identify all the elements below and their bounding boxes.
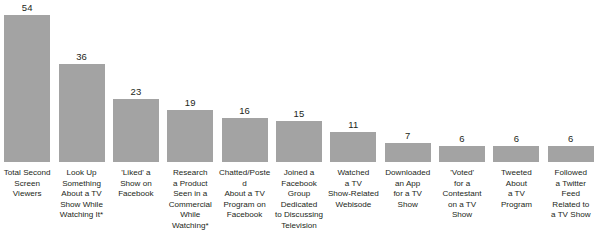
- bar-column: 7: [381, 0, 435, 162]
- bar-value-label: 23: [131, 86, 142, 97]
- bar-value-label: 6: [568, 133, 573, 144]
- bar-value-label: 19: [185, 97, 196, 108]
- bar-column: 23: [109, 0, 163, 162]
- category-label: Look Up Something About a TV Show While …: [54, 164, 108, 221]
- category-label: Tweeted About a TV Program: [489, 164, 543, 210]
- bar-column: 11: [326, 0, 380, 162]
- bar-column: 36: [54, 0, 108, 162]
- bar-column: 54: [0, 0, 54, 162]
- bar-rect: [222, 118, 268, 162]
- bar-column: 6: [489, 0, 543, 162]
- bar-rect: [493, 146, 539, 162]
- category-label: Total Second Screen Viewers: [0, 164, 54, 200]
- bar-rect: [59, 64, 105, 162]
- bar-rect: [4, 15, 50, 162]
- bar-column: 6: [544, 0, 598, 162]
- category-label: Joined a Facebook Group Dedicated to Dis…: [272, 164, 326, 232]
- bar-value-label: 36: [76, 51, 87, 62]
- bar-rect: [385, 143, 431, 162]
- bar-value-label: 6: [514, 133, 519, 144]
- bar-column: 16: [217, 0, 271, 162]
- bar-chart: 543623191615117666 Total Second Screen V…: [0, 0, 598, 250]
- bar-rect: [113, 99, 159, 162]
- bar-value-label: 6: [459, 133, 464, 144]
- bar-column: 6: [435, 0, 489, 162]
- bar-column: 19: [163, 0, 217, 162]
- category-label: 'Liked' a Show on Facebook: [109, 164, 163, 200]
- category-label: Research a Product Seen in a Commercial …: [163, 164, 217, 232]
- category-label: Watched a TV Show-Related Webisode: [326, 164, 380, 210]
- chart-plot-area: 543623191615117666: [0, 0, 598, 162]
- bar-rect: [548, 146, 594, 162]
- bar-rect: [439, 146, 485, 162]
- bar-value-label: 7: [405, 130, 410, 141]
- category-label: Downloaded an App for a TV Show: [381, 164, 435, 210]
- bar-value-label: 54: [22, 2, 33, 13]
- category-label: Followed a Twitter Feed Related to a TV …: [544, 164, 598, 221]
- bar-rect: [330, 132, 376, 162]
- chart-category-labels: Total Second Screen ViewersLook Up Somet…: [0, 164, 598, 250]
- bar-rect: [167, 110, 213, 162]
- bar-value-label: 11: [348, 119, 358, 130]
- category-label: 'Voted' for a Contestant on a TV Show: [435, 164, 489, 221]
- bar-value-label: 16: [239, 105, 250, 116]
- bar-column: 15: [272, 0, 326, 162]
- bar-rect: [276, 121, 322, 162]
- category-label: Chatted/Posted About a TV Program on Fac…: [217, 164, 271, 221]
- bar-value-label: 15: [294, 108, 305, 119]
